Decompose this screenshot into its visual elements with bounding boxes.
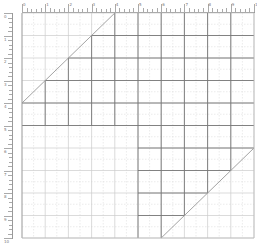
graph-paper-grid[interactable] (0, 0, 257, 247)
drawing-canvas-window: 012345678910 012345678910 (0, 0, 257, 247)
